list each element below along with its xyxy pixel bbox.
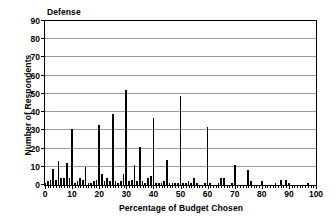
x-tick-mark-minor [159,185,160,188]
x-tick-mark-minor [59,185,60,188]
x-tick-mark-minor [102,185,103,188]
x-tick-mark-minor [148,185,149,188]
x-tick-mark-minor [275,185,276,188]
x-tick-mark-minor [305,185,306,188]
x-tick-mark-minor [151,185,152,188]
x-tick-mark-minor [283,185,284,188]
x-tick-mark-minor [308,185,309,188]
x-tick-mark-minor [186,185,187,188]
y-tick-label: 60 [31,71,40,81]
x-tick-label: 0 [43,189,48,199]
x-tick-mark-minor [254,185,255,188]
x-tick-mark-minor [218,185,219,188]
x-tick-mark-minor [86,185,87,188]
x-tick-mark-minor [105,185,106,188]
x-tick-mark-minor [189,185,190,188]
x-tick-mark-minor [56,185,57,188]
x-tick-mark-minor [140,185,141,188]
x-tick-mark-minor [313,185,314,188]
x-tick-mark-minor [75,185,76,188]
plot-area: 0102030405060708090 01020304050607080901… [44,20,317,186]
y-tick-label: 80 [31,34,40,44]
x-tick-mark-minor [134,185,135,188]
x-tick-mark-minor [129,185,130,188]
x-tick-label: 50 [176,189,185,199]
x-tick-mark-minor [256,185,257,188]
y-tick-label: 10 [31,162,40,172]
x-tick-mark-minor [172,185,173,188]
x-tick-mark-minor [137,185,138,188]
x-tick-mark-minor [300,185,301,188]
x-tick-mark-minor [110,185,111,188]
x-tick-mark-minor [191,185,192,188]
x-tick-mark-minor [61,185,62,188]
x-tick-mark-minor [229,185,230,188]
x-tick-mark-minor [246,185,247,188]
x-tick-mark-minor [88,185,89,188]
x-tick-mark-minor [170,185,171,188]
x-tick-mark-minor [132,185,133,188]
x-tick-mark-minor [221,185,222,188]
x-tick-mark-minor [64,185,65,188]
x-tick-mark-minor [178,185,179,188]
x-tick-mark-minor [227,185,228,188]
x-tick-mark-minor [113,185,114,188]
x-tick-label: 20 [94,189,103,199]
y-tick-label: 30 [31,125,40,135]
x-axis-title: Percentage of Budget Chosen [44,203,318,213]
x-tick-mark-minor [53,185,54,188]
x-tick-mark-minor [83,185,84,188]
x-tick-label: 30 [122,189,131,199]
x-tick-mark-minor [78,185,79,188]
x-tick-mark-minor [156,185,157,188]
x-tick-mark-minor [243,185,244,188]
x-tick-mark-minor [224,185,225,188]
x-tick-label: 40 [149,189,158,199]
x-axis-ticks: 0102030405060708090100 [45,21,316,185]
x-tick-mark-minor [143,185,144,188]
y-tick-label: 50 [31,89,40,99]
x-tick-mark-minor [118,185,119,188]
x-tick-mark-minor [175,185,176,188]
x-tick-label: 90 [284,189,293,199]
x-tick-label: 100 [309,189,323,199]
x-tick-mark-minor [278,185,279,188]
x-tick-mark-minor [162,185,163,188]
x-tick-mark-minor [115,185,116,188]
x-tick-mark-minor [96,185,97,188]
x-tick-mark-minor [164,185,165,188]
x-tick-mark-minor [107,185,108,188]
x-tick-mark-minor [302,185,303,188]
y-tick-label: 0 [35,180,40,190]
x-tick-mark-minor [311,185,312,188]
x-tick-mark-minor [121,185,122,188]
y-tick-label: 40 [31,107,40,117]
x-tick-mark-minor [213,185,214,188]
x-tick-mark-minor [267,185,268,188]
x-tick-mark-minor [273,185,274,188]
x-tick-mark-minor [240,185,241,188]
x-tick-mark-minor [194,185,195,188]
x-tick-mark-minor [270,185,271,188]
x-tick-mark-minor [210,185,211,188]
x-tick-mark-minor [197,185,198,188]
x-tick-mark-minor [91,185,92,188]
chart-figure: Defense Number of Respondents 0102030405… [0,0,335,224]
x-tick-mark-minor [292,185,293,188]
x-tick-mark-minor [251,185,252,188]
x-tick-label: 70 [230,189,239,199]
x-tick-mark-minor [199,185,200,188]
x-tick-label: 80 [257,189,266,199]
x-tick-mark-minor [237,185,238,188]
x-tick-mark-minor [80,185,81,188]
x-tick-mark-minor [69,185,70,188]
x-tick-mark-minor [50,185,51,188]
x-tick-mark-minor [297,185,298,188]
y-tick-label: 70 [31,52,40,62]
x-tick-mark-minor [216,185,217,188]
x-tick-mark-minor [167,185,168,188]
chart-title: Defense [47,7,81,17]
x-tick-mark-minor [286,185,287,188]
x-tick-mark-minor [183,185,184,188]
y-tick-label: 20 [31,144,40,154]
